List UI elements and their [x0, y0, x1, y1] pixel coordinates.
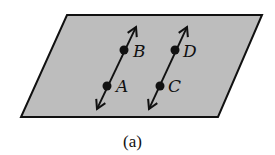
label-d: D: [182, 41, 197, 61]
caption: (a): [123, 132, 142, 151]
label-a: A: [114, 76, 128, 96]
label-c: C: [168, 76, 181, 96]
point-c: [156, 82, 165, 91]
plane: [21, 15, 262, 117]
label-b: B: [132, 41, 146, 61]
figure-canvas: B A D C (a): [0, 0, 275, 155]
point-b: [120, 46, 129, 55]
point-a: [103, 82, 112, 91]
point-d: [171, 46, 180, 55]
